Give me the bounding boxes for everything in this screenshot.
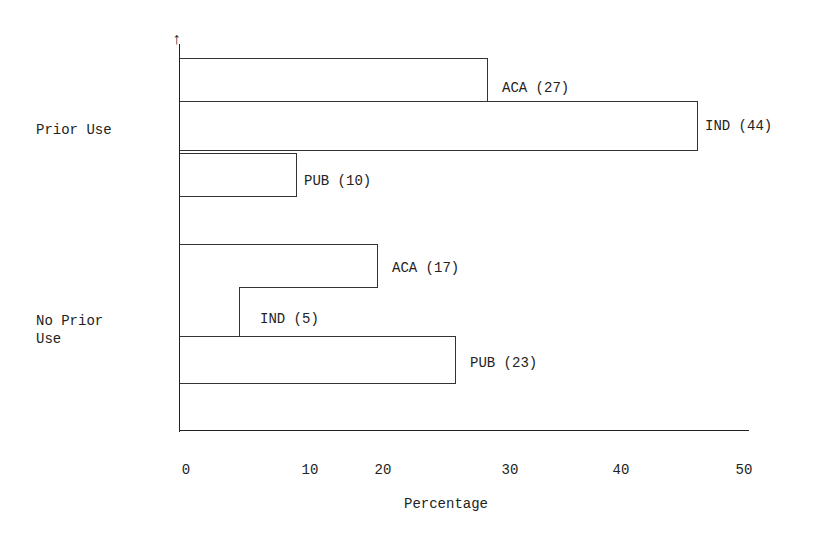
bar-prior-aca: [180, 58, 488, 104]
bar-noprior-aca: [180, 244, 378, 288]
bar-noprior-pub: [180, 336, 456, 384]
bar-prior-ind: [180, 101, 698, 151]
y-axis-arrow-icon: ↑: [172, 32, 182, 48]
bar-label-noprior-pub: PUB (23): [470, 355, 537, 371]
category-label-prior-use: Prior Use: [36, 121, 112, 139]
bar-label-noprior-ind: IND (5): [260, 311, 319, 327]
bar-noprior-ind: [180, 287, 240, 337]
category-label-no-prior-use: No Prior Use: [36, 312, 103, 348]
category-label-line: Use: [36, 330, 103, 348]
x-tick-label: 20: [375, 462, 392, 478]
category-label-line: No Prior: [36, 312, 103, 330]
x-tick-label: 0: [182, 462, 190, 478]
x-tick-label: 40: [613, 462, 630, 478]
bar-prior-pub: [180, 153, 297, 197]
bar-label-prior-pub: PUB (10): [304, 173, 371, 189]
x-tick-label: 30: [502, 462, 519, 478]
bar-label-noprior-aca: ACA (17): [392, 260, 459, 276]
x-tick-label: 10: [302, 462, 319, 478]
x-axis-label: Percentage: [404, 496, 488, 512]
bar-label-prior-ind: IND (44): [705, 118, 772, 134]
x-axis: [179, 430, 749, 431]
x-tick-label: 50: [736, 462, 753, 478]
bar-label-prior-aca: ACA (27): [502, 80, 569, 96]
